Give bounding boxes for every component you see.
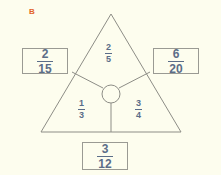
- answer-box-bottom[interactable]: 3 12: [82, 142, 128, 170]
- fraction-numerator: 3: [101, 143, 110, 155]
- fraction-denominator: 3: [79, 111, 84, 120]
- fraction-denominator: 12: [97, 158, 112, 170]
- fraction-numerator: 3: [136, 99, 141, 108]
- fraction-numerator: 1: [79, 99, 84, 108]
- fraction-denominator: 15: [37, 63, 52, 75]
- worksheet-canvas: B 2 5 1 3 3 4 2 15: [0, 0, 221, 175]
- fraction-denominator: 5: [106, 55, 111, 64]
- answer-box-right[interactable]: 6 20: [153, 48, 199, 74]
- fraction-numerator: 2: [41, 48, 50, 60]
- fraction-denominator: 20: [168, 63, 183, 75]
- fraction-denominator: 4: [136, 111, 141, 120]
- answer-box-left[interactable]: 2 15: [22, 48, 68, 74]
- fraction-numerator: 6: [172, 48, 181, 60]
- center-circle: [102, 85, 120, 103]
- region-fraction-bottom-left: 1 3: [78, 98, 85, 120]
- region-fraction-top: 2 5: [105, 42, 112, 64]
- fraction-numerator: 2: [106, 43, 111, 52]
- region-fraction-bottom-right: 3 4: [135, 98, 142, 120]
